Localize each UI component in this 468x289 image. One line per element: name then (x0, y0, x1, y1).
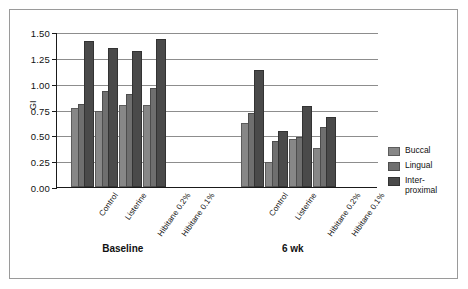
bar-cluster (143, 32, 166, 187)
bar-cluster (119, 32, 142, 187)
legend-label: Lingual (405, 161, 432, 171)
x-axis-group-label: 6 wk (282, 243, 304, 254)
y-axis-tick (52, 162, 57, 163)
bar (84, 41, 94, 187)
bar (108, 48, 118, 188)
y-axis-tick (52, 188, 57, 189)
y-axis-tick-label: 0.50 (31, 131, 50, 142)
bar-cluster (265, 32, 288, 187)
plot-area: 0.000.250.500.751.001.251.50 (56, 33, 377, 188)
bar-cluster (95, 32, 118, 187)
legend-label: Buccal (405, 146, 431, 156)
legend-swatch (388, 147, 400, 156)
bar-cluster (313, 32, 336, 187)
y-axis-tick-label: 0.25 (31, 157, 50, 168)
chart-legend: BuccalLingualInter- proximal (388, 146, 460, 200)
x-axis-group-label: Baseline (102, 243, 143, 254)
legend-item: Buccal (388, 146, 460, 156)
y-axis-tick (52, 111, 57, 112)
legend-swatch (388, 177, 400, 186)
y-axis-tick-label: 1.00 (31, 79, 50, 90)
bar (132, 51, 142, 187)
legend-swatch (388, 162, 400, 171)
y-axis-tick-label: 1.25 (31, 53, 50, 64)
chart-figure: GI 0.000.250.500.751.001.251.50 BuccalLi… (0, 0, 468, 289)
y-axis-tick (52, 85, 57, 86)
bar (326, 117, 336, 187)
y-axis-tick-label: 0.00 (31, 183, 50, 194)
bar (302, 106, 312, 187)
y-axis-tick-label: 1.50 (31, 28, 50, 39)
y-axis-tick (52, 136, 57, 137)
bar-cluster (71, 32, 94, 187)
y-axis-tick (52, 33, 57, 34)
bar (156, 39, 166, 187)
y-axis-tick-label: 0.75 (31, 105, 50, 116)
y-axis-tick (52, 59, 57, 60)
legend-label: Inter- proximal (405, 176, 437, 195)
legend-item: Lingual (388, 161, 460, 171)
bar-cluster (289, 32, 312, 187)
bar-cluster (241, 32, 264, 187)
legend-item: Inter- proximal (388, 176, 460, 195)
bar (254, 70, 264, 187)
bar (278, 131, 288, 187)
